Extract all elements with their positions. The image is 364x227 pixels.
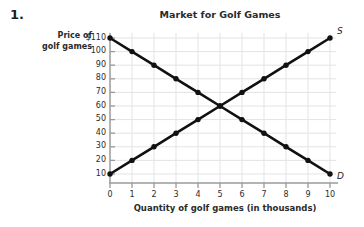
data-point-supply: [173, 131, 178, 136]
data-point-supply: [217, 103, 222, 108]
x-tick-label: 1: [123, 190, 141, 199]
data-point-demand: [195, 90, 200, 95]
data-point-demand: [173, 76, 178, 81]
y-tick-label: 20: [72, 155, 106, 164]
x-tick-label: 5: [211, 190, 229, 199]
x-tick-label: 8: [277, 190, 295, 199]
y-tick-label: 80: [72, 73, 106, 82]
y-tick-label: 40: [72, 128, 106, 137]
x-tick-label: 0: [101, 190, 119, 199]
x-tick-label: 7: [255, 190, 273, 199]
data-point-demand: [305, 158, 310, 163]
curve-label-demand: D: [337, 171, 344, 181]
data-point-demand: [327, 171, 332, 176]
y-tick-label: 30: [72, 141, 106, 150]
y-tick-label: 60: [72, 101, 106, 110]
data-point-demand: [239, 117, 244, 122]
y-tick-label: 100: [72, 46, 106, 55]
data-point-demand: [151, 62, 156, 67]
data-point-demand: [283, 144, 288, 149]
x-tick-label: 6: [233, 190, 251, 199]
data-point-supply: [129, 158, 134, 163]
x-tick-label: 9: [299, 190, 317, 199]
x-tick-label: 3: [167, 190, 185, 199]
data-point-demand: [129, 49, 134, 54]
x-axis-title: Quantity of golf games (in thousands): [95, 203, 355, 213]
x-tick-label: 4: [189, 190, 207, 199]
y-tick-label: 50: [72, 114, 106, 123]
worksheet-page: 1. Market for Golf Games Price of golf g…: [0, 0, 364, 227]
data-point-supply: [327, 35, 332, 40]
y-tick-label: 70: [72, 87, 106, 96]
curve-label-supply: S: [337, 26, 343, 36]
data-point-supply: [195, 117, 200, 122]
data-point-supply: [283, 62, 288, 67]
y-tick-label: 90: [72, 60, 106, 69]
x-tick-label: 2: [145, 190, 163, 199]
data-point-supply: [151, 144, 156, 149]
y-tick-label: $110: [72, 33, 106, 42]
data-point-supply: [261, 76, 266, 81]
data-point-supply: [305, 49, 310, 54]
data-point-demand: [261, 131, 266, 136]
data-point-demand: [107, 35, 112, 40]
data-point-supply: [239, 90, 244, 95]
data-point-supply: [107, 171, 112, 176]
x-tick-label: 10: [321, 190, 339, 199]
y-tick-label: 10: [72, 169, 106, 178]
